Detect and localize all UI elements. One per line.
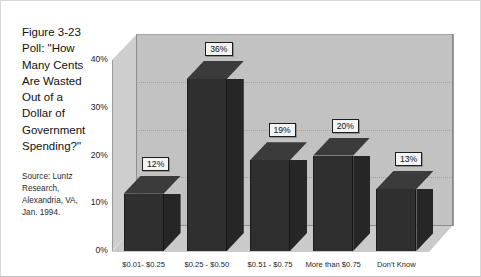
figure-canvas: Figure 3-23 Poll: "How Many Cents Are Wa… [0,0,481,277]
caption-line: Are Wasted [22,73,118,89]
bar[interactable] [187,61,227,251]
source-line: Research, [22,183,120,195]
bar-front-face [313,156,353,252]
bar-front-face [124,194,164,251]
x-axis-label: Don't Know [351,260,441,269]
bar[interactable] [250,142,290,251]
bar-chart-3d: 12%36%19%20%13% 0%10%20%30%40% $0.01- $0… [112,13,472,255]
y-axis-label: 0% [74,246,108,255]
y-axis-label: 40% [74,55,108,64]
caption-line: Government [22,122,118,138]
bar-data-label: 13% [395,152,422,166]
y-axis-label: 30% [74,103,108,112]
figure-caption: Figure 3-23 Poll: "How Many Cents Are Wa… [22,24,118,154]
bar-front-face [376,189,416,251]
y-axis-label: 10% [74,198,108,207]
gridline [136,34,452,35]
bar[interactable] [313,138,353,252]
plot-right-edge [452,34,453,225]
source-line: Jan. 1994. [22,207,120,219]
plot-side-panel-edge [112,60,113,251]
y-axis-label: 20% [74,151,108,160]
bar-front-face [250,160,290,251]
bar[interactable] [376,171,416,251]
figure-source-note: Source: Luntz Research, Alexandria, VA, … [22,171,120,219]
bar[interactable] [124,176,164,251]
bar-data-label: 36% [205,42,232,56]
gridline [136,82,452,83]
bar-front-face [187,79,227,251]
bar-side-face [227,79,244,251]
bar-data-label: 20% [332,119,359,133]
bar-data-label: 19% [269,123,296,137]
bar-data-label: 12% [142,157,169,171]
caption-line: Figure 3-23 [22,24,118,40]
source-line: Source: Luntz [22,171,120,183]
